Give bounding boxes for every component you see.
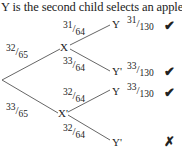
tree-branches [0,0,182,151]
root-branch-prob-x: 32/65 [6,46,28,58]
branch-prob-x-y: 31/64 [63,23,85,35]
branch-prob-xp-yp: 32/64 [63,126,85,138]
root-branch-prob-xp: 33/65 [6,105,28,117]
leaf-prob-1: 31/130 [127,18,154,30]
check-icon: ✔ [164,19,175,32]
check-icon: ✔ [164,86,175,99]
node-x: X [60,42,68,53]
leaf-y-1: Y [112,19,120,30]
leaf-y-prime-1: Y' [112,66,122,77]
node-x-prime: X' [58,108,68,119]
cross-icon: ✗ [164,135,175,148]
branch-prob-xp-y: 32/64 [63,90,85,102]
leaf-prob-3: 33/130 [127,85,154,97]
leaf-prob-2: 33/130 [127,64,154,76]
check-icon: ✔ [164,65,175,78]
branch-prob-x-yp: 33/64 [63,59,85,71]
leaf-y-2: Y [112,86,120,97]
leaf-y-prime-2: Y' [112,137,122,148]
